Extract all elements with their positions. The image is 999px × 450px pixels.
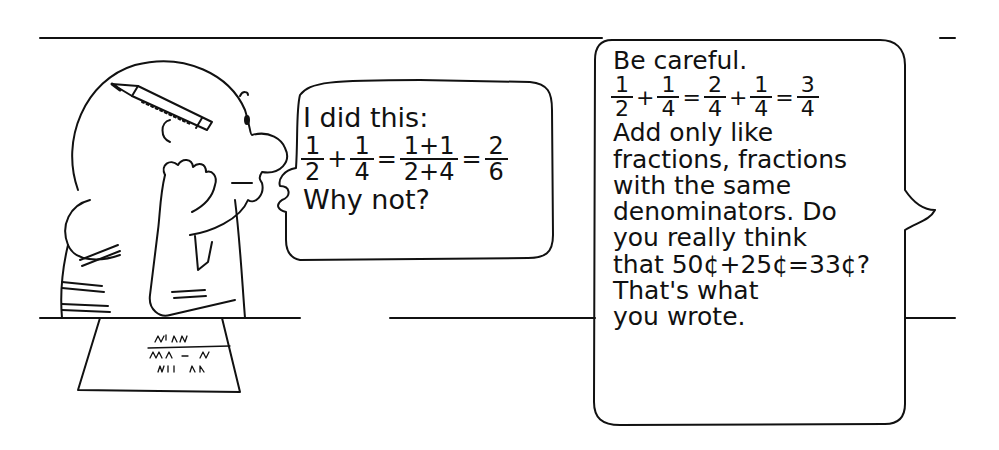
- boy-eyebrow: [240, 92, 248, 96]
- fraction: 14: [750, 74, 772, 120]
- sleeve-stripe: [80, 245, 120, 266]
- teacher-line: you really think: [613, 225, 903, 251]
- student-line-3: Why not?: [303, 186, 553, 214]
- boy-arm: [150, 175, 235, 316]
- teacher-line: Add only like: [613, 120, 903, 146]
- shirt-stripe: [62, 282, 110, 312]
- paper-sheet: [78, 318, 240, 392]
- fraction: 12: [301, 134, 324, 184]
- teacher-line: fractions, fractions: [613, 147, 903, 173]
- boy-fist: [164, 160, 216, 212]
- teacher-line: That's what: [613, 278, 903, 304]
- teacher-equation: 12+14=24+14=34: [609, 74, 903, 120]
- teacher-line: you wrote.: [613, 304, 903, 330]
- student-equation: 12+14=1+12+4=26: [299, 134, 553, 184]
- fraction: 14: [657, 74, 679, 120]
- teacher-speech: Be careful. 12+14=24+14=34 Add only like…: [613, 48, 903, 330]
- teacher-line: that 50¢+25¢=33¢?: [613, 252, 903, 278]
- fraction: 14: [350, 134, 373, 184]
- fraction: 24: [704, 74, 726, 120]
- boy-eye: [245, 116, 249, 124]
- boy-shoulder: [65, 200, 120, 259]
- fraction: 1+12+4: [400, 134, 459, 184]
- teacher-line: with the same: [613, 173, 903, 199]
- paper-scribbles: [148, 335, 230, 372]
- fraction: 26: [485, 134, 508, 184]
- fraction: 12: [611, 74, 633, 120]
- teacher-line: denominators. Do: [613, 199, 903, 225]
- boy-ear: [163, 120, 171, 142]
- shirt-stripe-right: [172, 290, 206, 298]
- teacher-line-1: Be careful.: [613, 48, 903, 74]
- student-line-1: I did this:: [303, 104, 553, 132]
- pencil-behind-ear: [112, 84, 212, 130]
- collar: [195, 236, 212, 270]
- fraction: 34: [797, 74, 819, 120]
- boy-body-right: [235, 200, 245, 318]
- boy-head: [72, 61, 287, 235]
- student-speech: I did this: 12+14=1+12+4=26 Why not?: [303, 104, 553, 215]
